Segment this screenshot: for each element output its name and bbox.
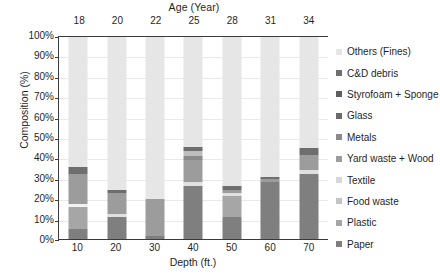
bar-segment — [222, 37, 241, 186]
top-tick-label: 34 — [290, 15, 328, 29]
x-tick-label: 70 — [289, 242, 328, 256]
legend-item-label: Metals — [347, 132, 376, 143]
y-tick-label: 50% — [34, 133, 54, 143]
legend-item: Food waste — [336, 191, 440, 212]
stacked-bar — [146, 37, 165, 239]
legend-swatch-icon — [336, 70, 342, 76]
legend-item: Plastic — [336, 212, 440, 233]
legend-item-label: C&D debris — [347, 68, 398, 79]
y-tick-label: 0% — [40, 235, 54, 245]
legend-swatch-icon — [336, 220, 342, 226]
bar-column — [136, 37, 174, 239]
top-tick-label: 18 — [60, 15, 98, 29]
legend-swatch-icon — [336, 198, 342, 204]
legend-item: Metals — [336, 127, 440, 148]
bar-series-container — [59, 37, 328, 239]
bar-segment — [69, 174, 88, 203]
legend-swatch-icon — [336, 113, 342, 119]
bar-segment — [69, 207, 88, 229]
legend-item-label: Food waste — [347, 196, 399, 207]
legend-item: Styrofoam + Sponge — [336, 84, 440, 105]
x-tick-label: 10 — [58, 242, 97, 256]
x-tick-label: 20 — [97, 242, 136, 256]
x-tick-label: 30 — [135, 242, 174, 256]
top-axis-ticks: 18202225283134 — [60, 15, 328, 29]
top-tick-label: 22 — [137, 15, 175, 29]
bar-segment — [261, 37, 280, 177]
stacked-bar — [107, 37, 126, 239]
legend-item: Textile — [336, 169, 440, 190]
y-axis-ticks: 0%10%20%30%40%50%60%70%80%90%100% — [16, 31, 56, 245]
legend: Others (Fines)C&D debrisStyrofoam + Spon… — [336, 41, 440, 255]
top-tick-label: 25 — [175, 15, 213, 29]
y-tick-label: 20% — [34, 194, 54, 204]
bar-segment — [69, 37, 88, 167]
x-tick-label: 40 — [174, 242, 213, 256]
top-tick-label: 20 — [98, 15, 136, 29]
legend-item-label: Plastic — [347, 217, 376, 228]
y-tick-label: 30% — [34, 174, 54, 184]
legend-item: Others (Fines) — [336, 41, 440, 62]
x-tick-label: 50 — [212, 242, 251, 256]
legend-item-label: Styrofoam + Sponge — [347, 89, 438, 100]
top-tick-label: 31 — [251, 15, 289, 29]
legend-item-label: Paper — [347, 239, 374, 250]
legend-swatch-icon — [336, 91, 342, 97]
y-tick-label: 80% — [34, 72, 54, 82]
bar-segment — [184, 160, 203, 182]
bar-segment — [107, 193, 126, 214]
bar-column — [251, 37, 289, 239]
legend-item-label: Others (Fines) — [347, 46, 411, 57]
bar-segment — [107, 37, 126, 190]
x-axis-title: Depth (ft.) — [58, 256, 328, 268]
bar-column — [213, 37, 251, 239]
legend-item: Glass — [336, 105, 440, 126]
bar-column — [174, 37, 212, 239]
bar-segment — [261, 182, 280, 239]
bar-segment — [299, 155, 318, 170]
y-tick-label: 10% — [34, 215, 54, 225]
y-tick-label: 70% — [34, 92, 54, 102]
x-axis-ticks: 10203040506070 — [58, 242, 328, 256]
bar-segment — [146, 199, 165, 236]
y-tick-label: 100% — [28, 31, 54, 41]
legend-item: Paper — [336, 234, 440, 255]
top-tick-label: 28 — [213, 15, 251, 29]
bar-segment — [222, 196, 241, 217]
y-tick-label: 90% — [34, 51, 54, 61]
legend-item: C&D debris — [336, 62, 440, 83]
y-tick-mark — [55, 240, 59, 241]
legend-item: Yard waste + Wood — [336, 148, 440, 169]
bar-segment — [69, 167, 88, 174]
bar-segment — [299, 148, 318, 155]
stacked-bar — [299, 37, 318, 239]
legend-swatch-icon — [336, 156, 342, 162]
bar-column — [290, 37, 328, 239]
bar-segment — [146, 37, 165, 199]
bar-segment — [184, 37, 203, 147]
bar-column — [97, 37, 135, 239]
bar-segment — [299, 174, 318, 239]
stacked-bar — [261, 37, 280, 239]
x-tick-label: 60 — [251, 242, 290, 256]
bar-segment — [69, 229, 88, 239]
legend-item-label: Glass — [347, 110, 373, 121]
bar-segment — [184, 186, 203, 239]
bar-column — [59, 37, 97, 239]
legend-swatch-icon — [336, 134, 342, 140]
legend-swatch-icon — [336, 241, 342, 247]
legend-swatch-icon — [336, 49, 342, 55]
bar-segment — [107, 217, 126, 239]
bar-segment — [222, 217, 241, 239]
legend-swatch-icon — [336, 177, 342, 183]
top-axis-title: Age (Year) — [60, 1, 328, 13]
legend-item-label: Yard waste + Wood — [347, 153, 434, 164]
legend-item-label: Textile — [347, 175, 375, 186]
bar-segment — [146, 236, 165, 239]
plot-area — [58, 36, 328, 240]
stacked-bar — [222, 37, 241, 239]
stacked-bar — [69, 37, 88, 239]
bar-segment — [299, 37, 318, 148]
y-tick-label: 60% — [34, 113, 54, 123]
stacked-bar — [184, 37, 203, 239]
